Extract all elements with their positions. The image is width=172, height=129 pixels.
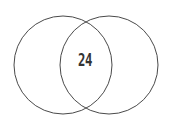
intersection-count-label: 24	[78, 50, 92, 70]
venn-diagram-figure: 24	[0, 0, 172, 129]
venn-diagram-canvas: 24	[0, 0, 172, 129]
